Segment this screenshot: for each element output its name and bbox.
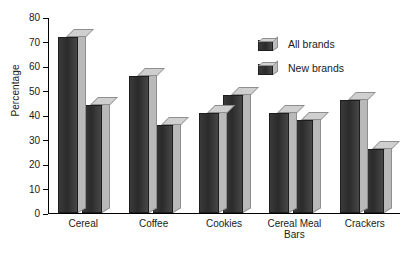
y-tick-label: 40 (29, 111, 40, 121)
y-tick-mark (43, 18, 48, 19)
y-axis-line (48, 18, 49, 214)
bar-chart: Percentage 01020304050607080 CerealCoffe… (0, 0, 412, 262)
y-tick-label: 10 (29, 185, 40, 195)
y-tick-mark (43, 67, 48, 68)
y-tick-label: 80 (29, 13, 40, 23)
y-tick-mark (43, 116, 48, 117)
y-tick-label: 70 (29, 38, 40, 48)
legend-label-all-brands: All brands (288, 38, 335, 51)
legend-swatch-new-brands (258, 62, 278, 75)
y-tick-mark (43, 91, 48, 92)
y-tick-label: 50 (29, 87, 40, 97)
x-tick-label: Crackers (318, 218, 412, 229)
y-tick-label: 20 (29, 160, 40, 170)
y-axis-title: Percentage (10, 46, 21, 136)
y-tick-label: 60 (29, 62, 40, 72)
bar (340, 100, 360, 213)
y-tick-mark (43, 214, 48, 215)
y-tick-mark (43, 42, 48, 43)
bar (269, 113, 289, 213)
bar-group (199, 17, 243, 213)
bar (199, 113, 219, 213)
plot-area: 01020304050607080 CerealCoffeeCookiesCer… (48, 18, 400, 214)
y-tick-mark (43, 140, 48, 141)
legend-swatch-all-brands (258, 38, 278, 51)
y-tick-mark (43, 165, 48, 166)
y-tick-mark (43, 189, 48, 190)
bar-group (58, 17, 102, 213)
bar-group (340, 17, 384, 213)
bar (58, 37, 78, 213)
bar-group (129, 17, 173, 213)
legend-label-new-brands: New brands (288, 62, 344, 75)
y-tick-label: 30 (29, 136, 40, 146)
x-axis-line (48, 213, 400, 214)
bar (129, 76, 149, 213)
